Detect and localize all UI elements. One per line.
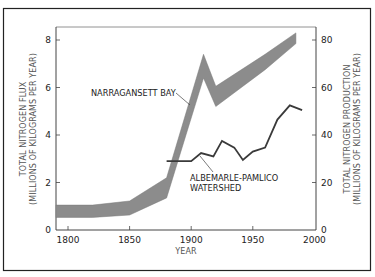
narragansett-band-area	[56, 33, 296, 218]
narragansett-label: NARRAGANSETT BAY	[91, 88, 177, 98]
left-y-tick-label: 6	[45, 83, 51, 93]
x-tick-label: 1900	[180, 235, 203, 245]
left-axis-title: TOTAL NITROGEN FLUX (MILLIONS OF KILOGRA…	[19, 53, 38, 205]
narragansett-bay-band	[56, 33, 296, 218]
narragansett-leader-line	[176, 93, 190, 105]
right-y-tick-label: 0	[321, 225, 327, 235]
right-axis-title-line2: (MILLIONS OF KILOGRAMS PER YEAR)	[353, 53, 362, 205]
right-y-tick-label: 20	[321, 178, 333, 188]
narragansett-annotation: NARRAGANSETT BAY	[91, 88, 190, 105]
right-y-tick-label: 80	[321, 35, 333, 45]
outer-frame	[4, 9, 371, 271]
left-y-tick-label: 8	[45, 35, 51, 45]
x-tick-label: 1850	[118, 235, 141, 245]
x-tick-label: 1800	[57, 235, 80, 245]
left-y-tick-label: 0	[45, 225, 51, 235]
right-axis-title: TOTAL NITROGEN PRODUCTION (MILLIONS OF K…	[343, 53, 362, 205]
left-axis-title-line1: TOTAL NITROGEN FLUX	[19, 81, 28, 177]
albemarle-label-line2: WATERSHED	[190, 183, 241, 193]
albemarle-label-line1: ALBEMARLE-PAMLICO	[190, 173, 278, 183]
right-y-tick-label: 60	[321, 83, 333, 93]
x-tick-label: 1950	[241, 235, 264, 245]
nitrogen-chart: 1800185019001950200002468020406080 YEAR …	[0, 0, 375, 277]
left-y-tick-label: 2	[45, 178, 51, 188]
left-axis-title-line2: (MILLIONS OF KILOGRAMS PER YEAR)	[29, 53, 38, 205]
albemarle-leader-line	[200, 156, 213, 172]
x-tick-label: 2000	[303, 235, 326, 245]
right-axis-title-line1: TOTAL NITROGEN PRODUCTION	[343, 64, 352, 194]
right-y-tick-label: 40	[321, 130, 333, 140]
albemarle-annotation: ALBEMARLE-PAMLICO WATERSHED	[190, 156, 278, 193]
x-axis-title: YEAR	[174, 247, 197, 256]
left-y-tick-label: 4	[45, 130, 51, 140]
